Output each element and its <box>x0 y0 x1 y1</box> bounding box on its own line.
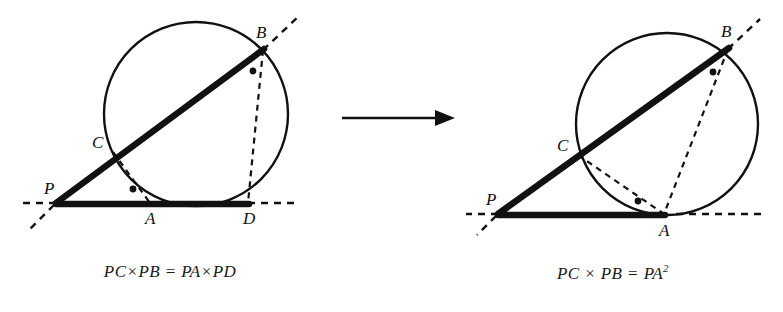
left-geometry-svg: P A B C D <box>0 0 340 260</box>
caption-left-op2: × <box>201 262 213 281</box>
caption-right: PC × PB = PA2 <box>443 262 783 284</box>
point-label-a-right: A <box>658 221 670 240</box>
point-label-c-left: C <box>92 133 104 152</box>
point-label-p-right: P <box>485 190 496 209</box>
caption-right-op1: × <box>584 264 596 283</box>
angle-dot-at-b-left <box>250 68 257 75</box>
point-label-p-left: P <box>43 179 54 198</box>
transformation-arrow-svg <box>330 95 460 145</box>
dashed-extension-beyond-b-right <box>728 19 760 49</box>
caption-right-lhs1: PC <box>557 264 580 283</box>
caption-left-eq: = <box>165 262 177 281</box>
secant-pb-left <box>56 49 264 203</box>
transformation-arrow-wrap <box>330 95 460 145</box>
angle-dot-at-a-right <box>635 198 642 205</box>
caption-right-eq: = <box>627 264 639 283</box>
figure-canvas: P A B C D <box>0 0 783 312</box>
caption-left-rhs2: PD <box>213 262 236 281</box>
caption-left-op1: × <box>126 262 138 281</box>
right-geometry-svg: P A B C <box>443 0 783 260</box>
caption-left-lhs2: PB <box>138 262 160 281</box>
caption-left-lhs1: PC <box>104 262 127 281</box>
caption-left-rhs1: PA <box>181 262 200 281</box>
point-label-a-left: A <box>144 209 156 228</box>
dashed-extension-beyond-b-left <box>263 17 298 50</box>
caption-right-lhs2: PB <box>601 264 623 283</box>
point-label-b-left: B <box>256 23 267 42</box>
caption-right-rhs1: PA <box>644 264 663 283</box>
angle-dot-at-b-right <box>710 69 717 76</box>
point-label-c-right: C <box>557 136 569 155</box>
dashed-extension-before-p-secant-right <box>477 216 496 235</box>
caption-right-exponent: 2 <box>663 262 669 274</box>
dashed-extension-before-p-secant-left <box>29 205 54 230</box>
circle-right <box>576 33 758 215</box>
caption-left: PC×PB = PA×PD <box>0 262 340 282</box>
angle-dot-at-a-left <box>130 186 137 193</box>
point-label-d-left: D <box>242 209 256 228</box>
point-label-b-right: B <box>721 22 732 41</box>
dashed-chord-ca-right <box>578 155 664 214</box>
secant-pb-right <box>498 48 729 214</box>
